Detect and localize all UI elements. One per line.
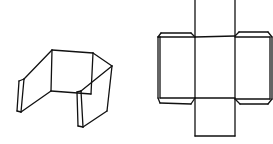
folded-box-edge	[93, 53, 112, 66]
net-edge	[158, 98, 160, 103]
folded-box-edge	[77, 92, 78, 126]
folded-box-edge	[17, 81, 19, 111]
folded-box-drawing	[17, 50, 112, 127]
net-edge	[160, 103, 191, 104]
net-edge	[195, 36, 235, 37]
folded-box-edge	[91, 53, 93, 94]
folded-box-edge	[81, 66, 112, 91]
folded-box-edge	[78, 126, 83, 127]
folded-box-edge	[21, 91, 51, 112]
net-edge	[235, 99, 240, 104]
folded-box-edge	[24, 50, 52, 79]
folded-box-edge	[81, 91, 83, 127]
folded-box-edge	[51, 50, 52, 91]
folded-box-edge	[52, 50, 93, 53]
folded-box-edge	[107, 66, 112, 111]
diagram-svg	[0, 0, 273, 144]
diagram-canvas	[0, 0, 273, 144]
folded-box-edge	[21, 79, 24, 112]
net-edge	[268, 32, 272, 37]
folded-box-edge	[51, 91, 91, 94]
folded-box-edge	[83, 111, 107, 127]
box-net-drawing	[158, 0, 272, 136]
net-edge	[268, 99, 272, 104]
